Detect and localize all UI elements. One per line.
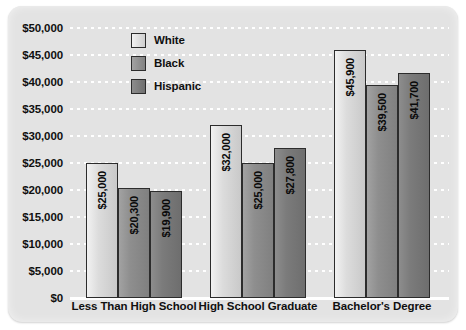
bar[interactable]: $45,900: [334, 50, 366, 298]
bar[interactable]: $32,000: [210, 125, 242, 298]
y-axis-tick-label: $0: [50, 292, 63, 304]
y-axis-tick-label: $10,000: [22, 238, 63, 250]
bar-group: $32,000$25,000$27,800: [210, 28, 306, 298]
bar-value-label: $27,800: [284, 156, 296, 194]
legend-swatch-icon: [131, 56, 146, 71]
bar-value-label: $19,900: [160, 199, 172, 237]
bar[interactable]: $27,800: [274, 148, 306, 298]
legend-item-label: White: [154, 34, 185, 46]
y-axis-tick-label: $35,000: [22, 103, 63, 115]
y-axis-tick-label: $5,000: [28, 265, 63, 277]
bar-value-label: $25,000: [252, 171, 264, 209]
legend-item[interactable]: White: [131, 32, 201, 48]
legend-swatch-icon: [131, 79, 146, 94]
bar[interactable]: $19,900: [150, 191, 182, 298]
y-axis-tick-label: $50,000: [22, 22, 63, 34]
bar-value-label: $39,500: [376, 93, 388, 131]
bar-value-label: $20,300: [128, 196, 140, 234]
x-axis-tick-label: Less Than High School: [71, 300, 196, 312]
bar[interactable]: $20,300: [118, 188, 150, 298]
bar[interactable]: $41,700: [398, 73, 430, 298]
x-axis-labels: Less Than High SchoolHigh School Graduat…: [70, 300, 449, 322]
y-axis-tick-label: $30,000: [22, 130, 63, 142]
y-axis-tick-label: $45,000: [22, 49, 63, 61]
y-axis-tick-label: $15,000: [22, 211, 63, 223]
bar-value-label: $32,000: [220, 133, 232, 171]
bar[interactable]: $39,500: [366, 85, 398, 298]
x-axis-tick-label: Bachelor's Degree: [333, 300, 432, 312]
chart-container: $0$5,000$10,000$15,000$20,000$25,000$30,…: [8, 6, 458, 322]
legend-swatch-icon: [131, 33, 146, 48]
bar-value-label: $25,000: [96, 171, 108, 209]
y-axis-tick-label: $25,000: [22, 157, 63, 169]
bar-groups: $25,000$20,300$19,900$32,000$25,000$27,8…: [70, 28, 449, 298]
y-axis-tick-label: $20,000: [22, 184, 63, 196]
legend-item-label: Hispanic: [154, 80, 201, 92]
x-axis-tick-label: High School Graduate: [199, 300, 318, 312]
bar[interactable]: $25,000: [242, 163, 274, 298]
bar-group: $45,900$39,500$41,700: [334, 28, 430, 298]
bar-value-label: $45,900: [344, 58, 356, 96]
legend-item[interactable]: Black: [131, 55, 201, 71]
legend-item-label: Black: [154, 57, 184, 69]
y-axis-tick-label: $40,000: [22, 76, 63, 88]
bar[interactable]: $25,000: [86, 163, 118, 298]
bar-value-label: $41,700: [408, 81, 420, 119]
plot-area: $0$5,000$10,000$15,000$20,000$25,000$30,…: [70, 28, 449, 298]
chart-legend: WhiteBlackHispanic: [131, 32, 201, 94]
legend-item[interactable]: Hispanic: [131, 78, 201, 94]
